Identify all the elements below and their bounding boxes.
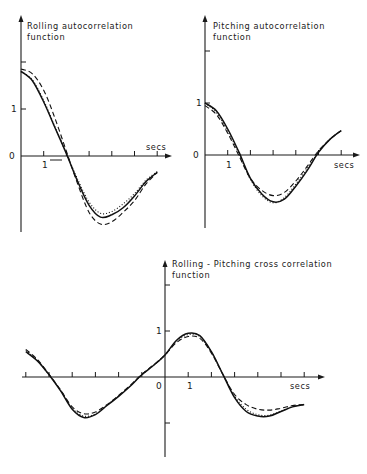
series-dashed-line	[21, 69, 157, 225]
y-axis-arrow-icon	[163, 260, 168, 267]
pitching-autocorrelation-chart: Pitching autocorrelation function secs 0…	[193, 15, 360, 228]
y-axis-arrow-icon	[203, 15, 208, 22]
chart-title-line-2: function	[172, 270, 210, 280]
chart-title-line-1: Pitching autocorrelation	[213, 21, 325, 31]
x-axis-arrow-icon	[353, 153, 360, 158]
x-axis-label: secs	[146, 142, 166, 152]
x-tick-label-1: 1	[187, 381, 193, 391]
x-axis-label: secs	[290, 381, 310, 391]
x-axis-label: secs	[334, 160, 354, 170]
x-tick-label-0: 0	[156, 381, 162, 391]
x-tick-label-1: 1	[42, 160, 48, 170]
series-solid-line	[21, 71, 157, 217]
y-axis-arrow-icon	[19, 15, 24, 22]
y-tick-label-1: 1	[196, 98, 202, 108]
y-tick-label-1: 1	[11, 104, 17, 114]
chart-title-line-2: function	[213, 32, 251, 42]
chart-title-line-1: Rolling autocorrelation	[27, 21, 133, 31]
x-tick-label-1: 1	[226, 160, 232, 170]
y-tick-label-0: 0	[9, 151, 15, 161]
figure: Rolling autocorrelation function secs 0 …	[0, 0, 367, 474]
rolling-autocorrelation-chart: Rolling autocorrelation function secs 0 …	[9, 15, 172, 232]
x-axis-arrow-icon	[165, 154, 172, 159]
y-tick-label-0: 0	[193, 150, 199, 160]
cross-correlation-chart: Rolling - Pitching cross correlation fun…	[22, 259, 332, 457]
y-tick-label-1: 1	[156, 326, 162, 336]
chart-title-line-1: Rolling - Pitching cross correlation	[172, 259, 332, 269]
chart-title-line-2: function	[27, 32, 65, 42]
x-axis-arrow-icon	[318, 375, 325, 380]
